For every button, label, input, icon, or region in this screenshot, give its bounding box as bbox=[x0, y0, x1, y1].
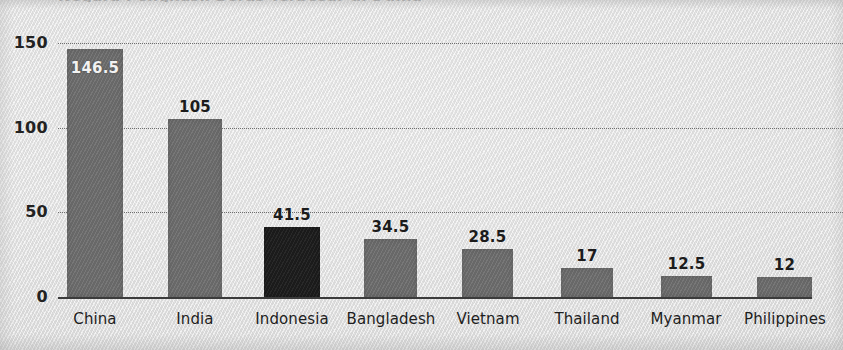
y-axis-tick-label: 100 bbox=[2, 118, 48, 137]
bar-india bbox=[168, 119, 222, 297]
bar-value-label-indonesia: 41.5 bbox=[246, 206, 338, 224]
bar-vietnam bbox=[462, 249, 513, 297]
x-axis-line bbox=[58, 297, 812, 299]
bar-value-label-india: 105 bbox=[150, 98, 240, 116]
bar-philippines bbox=[757, 277, 812, 297]
bar-thailand bbox=[561, 268, 613, 297]
bar-bangladesh bbox=[364, 239, 417, 297]
bar-chart-figure: Negara Penghasil Beras Terbesar di Dunia… bbox=[0, 0, 843, 350]
bar-value-label-myanmar: 12.5 bbox=[643, 255, 730, 273]
bar-value-label-vietnam: 28.5 bbox=[444, 228, 531, 246]
bar-myanmar bbox=[661, 276, 712, 297]
gridline-150 bbox=[58, 43, 843, 44]
y-axis-tick-label: 0 bbox=[2, 287, 48, 306]
bar-value-label-china: 146.5 bbox=[49, 59, 141, 77]
x-axis-category-label-philippines: Philippines bbox=[725, 310, 843, 328]
plot-area: 050100150146.5China105India41.5Indonesia… bbox=[0, 0, 843, 350]
bar-china bbox=[67, 49, 123, 297]
bar-value-label-philippines: 12 bbox=[739, 256, 830, 274]
bar-value-label-bangladesh: 34.5 bbox=[346, 218, 435, 236]
bar-indonesia bbox=[264, 227, 320, 297]
y-axis-tick-label: 150 bbox=[2, 33, 48, 52]
bar-value-label-thailand: 17 bbox=[543, 247, 631, 265]
y-axis-tick-label: 50 bbox=[2, 202, 48, 221]
